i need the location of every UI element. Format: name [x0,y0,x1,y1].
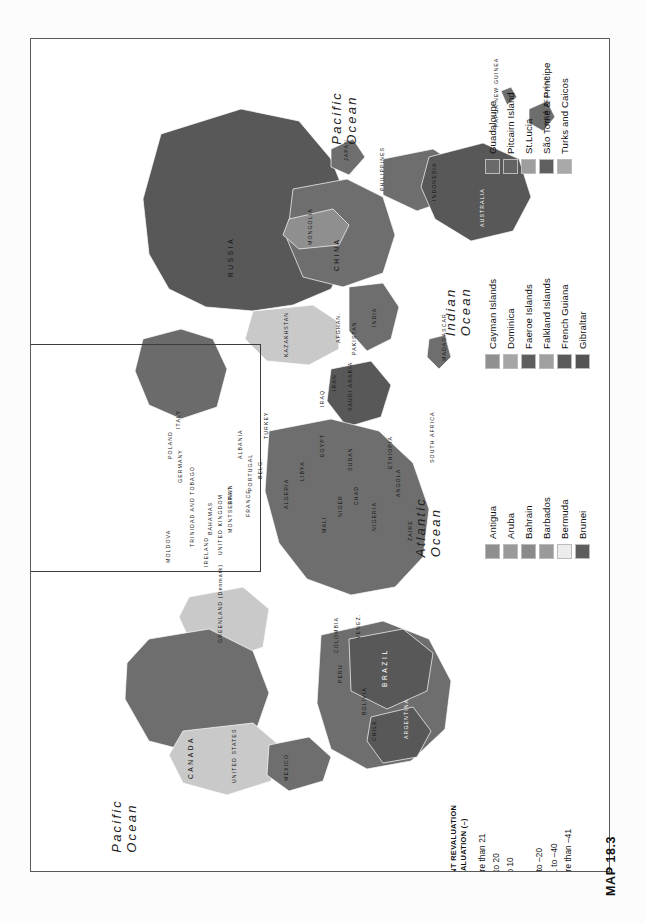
island-legend-item-label: Falkland Islands [541,278,552,349]
island-legend-item-label: Barbados [541,497,552,539]
legend-item-label: More than 21 [478,834,487,872]
island-legend-a: Antigua Aruba Bahrain Barbados Bermuda B… [483,497,591,559]
island-legend-item-bermuda[interactable]: Bermuda [555,497,573,559]
island-legend-item-label: Guadaloupe [487,101,498,154]
island-legend-item-st-lucia[interactable]: St.Lucia [519,63,537,174]
island-legend-b: Cayman Islands Dominica Faeroe Islands F… [483,278,591,369]
legend-item-label: 11 to 20 [492,853,501,872]
legend-swatch-icon [485,159,500,174]
main-legend-title-line2: OR DEVALUATION (–) [459,805,469,872]
legend-swatch-icon [557,354,572,369]
island-legend-item-label: Antigua [487,506,498,539]
island-legend-item-faeroe-islands[interactable]: Faeroe Islands [519,278,537,369]
legend-swatch-icon [503,354,518,369]
legend-item-more-than-21[interactable]: More than 21 [475,805,489,872]
island-legend-item-label: Bermuda [559,499,570,539]
legend-swatch-icon [539,159,554,174]
country-mexico [267,737,331,791]
legend-item-11-to-20[interactable]: 11 to 20 [489,805,503,872]
island-legend-item-barbados[interactable]: Barbados [537,497,555,559]
island-legend-item-falkland-islands[interactable]: Falkland Islands [537,278,555,369]
main-legend-title: PERCENT REVALUATION OR DEVALUATION (–) [449,805,469,872]
legend-item-label: –1 to –20 [535,848,544,872]
island-legend-item-label: Aruba [505,513,516,539]
island-legend-item-dominica[interactable]: Dominica [501,278,519,369]
map-caption: MAP 18.3 [604,836,618,896]
legend-swatch-icon [575,544,590,559]
island-legend-item-label: Dominica [505,308,516,349]
country-arabia [327,361,391,427]
page-background: Pacific Ocean Indian Ocean Atlantic Ocea… [0,0,645,923]
world-map-frame: Pacific Ocean Indian Ocean Atlantic Ocea… [30,38,610,872]
legend-swatch-icon [575,354,590,369]
legend-swatch-icon [557,159,572,174]
island-legend-item-aruba[interactable]: Aruba [501,497,519,559]
country-united-states [169,723,279,795]
legend-swatch-icon [521,544,536,559]
europe-inset-frame [30,344,261,572]
legend-item-more-than-minus-41[interactable]: More than –41 [561,805,575,872]
legend-item-label: –21 to –40 [550,843,559,872]
main-legend-title-line1: PERCENT REVALUATION [449,805,459,872]
island-legend-item-label: Brunei [577,511,588,539]
island-legend-item-label: French Guiana [559,284,570,349]
legend-item-zero[interactable]: 0 [518,805,532,872]
legend-swatch-icon [521,354,536,369]
island-legend-item-pitcairn-island[interactable]: Pitcairn Island [501,63,519,174]
island-legend-item-french-guiana[interactable]: French Guiana [555,278,573,369]
island-legend-item-guadaloupe[interactable]: Guadaloupe [483,63,501,174]
legend-swatch-icon [557,544,572,559]
island-legend-item-brunei[interactable]: Brunei [573,497,591,559]
legend-swatch-icon [485,354,500,369]
legend-swatch-icon [539,544,554,559]
legend-swatch-icon [539,354,554,369]
legend-item-label: More than –41 [564,829,573,872]
island-legend-item-antigua[interactable]: Antigua [483,497,501,559]
legend-swatch-icon [503,159,518,174]
island-legend-item-label: São Tomé & Principe [541,63,552,154]
legend-item-1-to-10[interactable]: 1 to 10 [504,805,518,872]
country-india [349,283,399,351]
legend-swatch-icon [503,544,518,559]
main-legend-items: More than 21 11 to 20 1 to 10 0 –1 to –2… [475,805,576,872]
island-legend-item-sao-tome-and-principe[interactable]: São Tomé & Principe [537,63,555,174]
island-legend-c: Guadaloupe Pitcairn Island St.Lucia São … [483,63,573,174]
legend-swatch-icon [485,544,500,559]
island-legend-item-label: Gibraltar [577,311,588,349]
island-legend-item-turks-and-caicos[interactable]: Turks and Caicos [555,63,573,174]
main-legend: PERCENT REVALUATION OR DEVALUATION (–) M… [449,805,576,872]
island-legend-item-label: Pitcairn Island [505,92,516,154]
continent-africa [265,419,429,595]
island-legend-item-cayman-islands[interactable]: Cayman Islands [483,278,501,369]
legend-swatch-icon [521,159,536,174]
legend-item-minus-1-to-20[interactable]: –1 to –20 [533,805,547,872]
island-legend-item-label: Faeroe Islands [523,284,534,349]
country-japan [331,139,365,175]
legend-item-minus-21-to-40[interactable]: –21 to –40 [547,805,561,872]
island-legend-item-label: Turks and Caicos [559,78,570,154]
island-legend-item-label: Bahrain [523,505,534,539]
legend-item-label: 1 to 10 [506,857,515,872]
island-legend-item-label: St.Lucia [523,119,534,154]
island-legend-item-label: Cayman Islands [487,279,498,349]
country-madagascar [427,335,451,369]
island-legend-item-gibraltar[interactable]: Gibraltar [573,278,591,369]
island-legend-item-bahrain[interactable]: Bahrain [519,497,537,559]
